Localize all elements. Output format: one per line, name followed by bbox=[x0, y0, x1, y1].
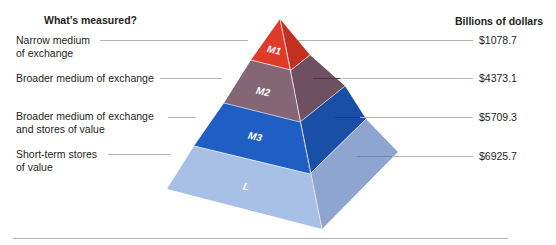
tier-m2-value: $4373.1 bbox=[479, 72, 517, 84]
tier-m1-value: $1078.7 bbox=[479, 34, 517, 46]
tier-m2-description: Broader medium of exchange bbox=[16, 72, 154, 85]
tier-m3-value: $5709.3 bbox=[479, 111, 517, 123]
tier-m3-description: Broader medium of exchange and stores of… bbox=[16, 110, 154, 136]
tier-m1-description: Narrow medium of exchange bbox=[16, 34, 90, 60]
tier-l-description: Short-term stores of value bbox=[16, 148, 97, 174]
tier-l-value: $6925.7 bbox=[479, 150, 517, 162]
